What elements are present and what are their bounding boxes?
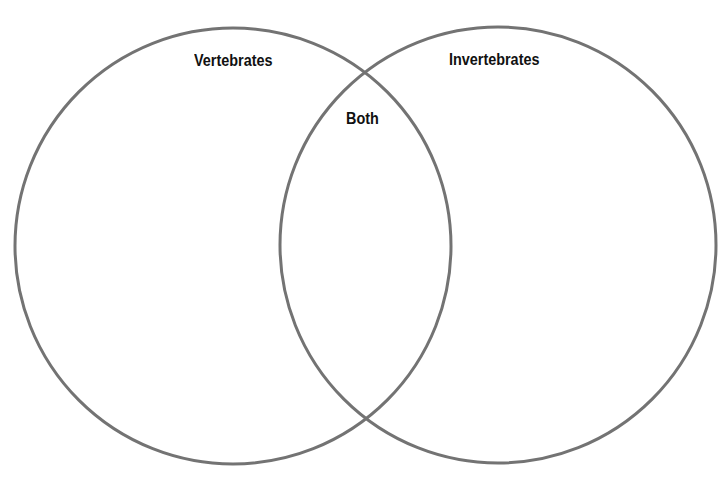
invertebrates-circle [280, 27, 716, 463]
vertebrates-label: Vertebrates [194, 52, 272, 70]
invertebrates-label: Invertebrates [449, 51, 539, 69]
both-label: Both [346, 110, 379, 128]
vertebrates-circle [15, 28, 451, 464]
venn-diagram [0, 0, 727, 485]
